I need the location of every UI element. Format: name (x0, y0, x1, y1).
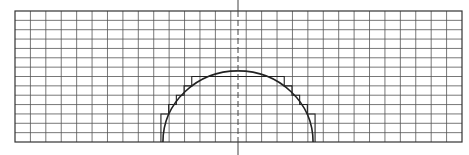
grid-diagram (0, 0, 469, 155)
